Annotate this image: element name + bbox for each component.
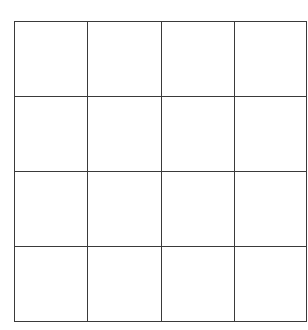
grid-cell-r3-c3 <box>162 172 235 247</box>
grid-cell-r1-c1 <box>15 22 88 97</box>
grid-cell-r4-c1 <box>15 247 88 321</box>
grid-cell-r2-c1 <box>15 97 88 172</box>
grid-cell-r3-c1 <box>15 172 88 247</box>
grid-cell-r3-c4 <box>235 172 306 247</box>
grid-cell-r2-c3 <box>162 97 235 172</box>
grid-cell-r1-c4 <box>235 22 306 97</box>
grid-cell-r1-c3 <box>162 22 235 97</box>
grid-cell-r3-c2 <box>88 172 162 247</box>
grid-cell-r2-c4 <box>235 97 306 172</box>
grid-cell-r4-c4 <box>235 247 306 321</box>
grid-cell-r1-c2 <box>88 22 162 97</box>
grid-cell-r4-c3 <box>162 247 235 321</box>
grid-4x4 <box>14 21 307 322</box>
grid-cell-r4-c2 <box>88 247 162 321</box>
grid-cell-r2-c2 <box>88 97 162 172</box>
